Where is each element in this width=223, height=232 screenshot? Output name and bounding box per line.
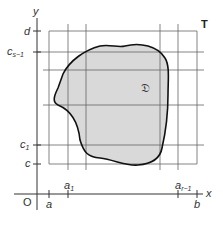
- x-tick-b: b: [194, 199, 200, 210]
- rectangle-label: T: [201, 19, 208, 30]
- partition-diagram: [0, 0, 223, 232]
- region-label: 𝔇: [141, 82, 150, 94]
- y-tick-c1: c1: [20, 139, 29, 151]
- x-tick-a-r-minus-1: ar−1: [175, 180, 191, 192]
- y-axis-label: y: [33, 6, 39, 17]
- y-tick-c: c: [25, 158, 31, 169]
- x-axis-label: x: [206, 188, 212, 199]
- origin-label: O: [23, 197, 32, 208]
- y-tick-c1-sub: 1: [26, 144, 30, 151]
- y-tick-cs-sub: s−1: [13, 51, 24, 58]
- y-tick-d: d: [24, 26, 30, 37]
- x-tick-a1: a1: [64, 180, 74, 192]
- x-tick-a1-sub: 1: [70, 185, 74, 192]
- x-tick-ar-sub: r−1: [181, 185, 191, 192]
- y-tick-c-s-minus-1: cs−1: [7, 46, 24, 58]
- x-tick-a: a: [46, 199, 52, 210]
